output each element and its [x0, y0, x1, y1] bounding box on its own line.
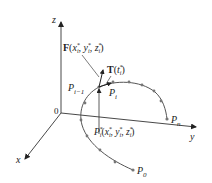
curve-point [80, 119, 83, 122]
p-i-minus-1-label: Pi−1 [67, 82, 84, 96]
p-i-label: Pi [108, 87, 117, 101]
curve-point [99, 149, 102, 152]
origin-label: 0 [54, 106, 59, 116]
curve-point [84, 102, 87, 105]
curve-point [160, 100, 163, 103]
force-vector [99, 70, 103, 87]
curve-point [153, 90, 156, 93]
point-p-i [112, 81, 115, 84]
svg-text:P0: P0 [136, 165, 147, 179]
x-axis-label: x [15, 154, 21, 165]
force-label: F(x*i, y*i, z*i) [63, 42, 104, 54]
y-axis-label: y [189, 131, 195, 142]
p-0-label: P0 [136, 165, 147, 179]
x-axis [25, 113, 61, 159]
p-n-label: Pn [170, 114, 181, 128]
svg-text:Pn: Pn [170, 114, 181, 128]
svg-text:Pi: Pi [108, 87, 117, 101]
curve-point [141, 84, 144, 87]
p-star-label: P*i(x*i, y*i, z*i) [93, 126, 134, 138]
z-axis-label: z [51, 14, 56, 25]
point-pn [165, 117, 168, 120]
curve-point [114, 161, 117, 164]
tangent-label: T(t*i) [107, 64, 125, 76]
svg-text:T(t*i): T(t*i) [107, 64, 125, 76]
line-integral-diagram: z x y 0 F(x*i, y*i, z*i) T(t*i) [0, 0, 212, 183]
force-leader [82, 55, 99, 77]
curve-point [128, 81, 131, 84]
svg-text:F(x*i, y*i, z*i): F(x*i, y*i, z*i) [63, 42, 104, 54]
point-p0 [131, 168, 134, 171]
svg-text:Pi−1: Pi−1 [67, 82, 84, 96]
svg-text:P*i(x*i, y*i, z*i): P*i(x*i, y*i, z*i) [93, 126, 134, 138]
curve-point [86, 135, 89, 138]
